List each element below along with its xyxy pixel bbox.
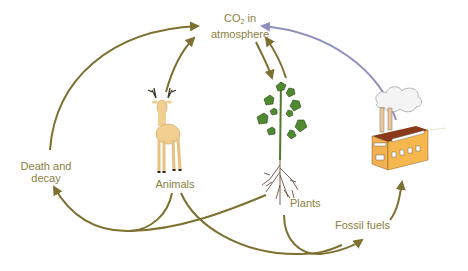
deer-icon <box>148 88 182 173</box>
arrow-animals-to-co2 <box>166 38 194 92</box>
faint-line <box>430 128 446 130</box>
co2-suffix: in <box>244 12 256 24</box>
death-decay-line1: Death and <box>21 160 72 172</box>
arrow-factory-to-co2 <box>262 26 396 120</box>
arrow-co2-to-plants <box>256 42 272 78</box>
factory-icon <box>372 87 428 170</box>
co2-atmosphere-label: CO2 in atmosphere <box>205 12 275 40</box>
death-decay-label: Death and decay <box>10 160 82 184</box>
co2-prefix: CO <box>224 12 241 24</box>
fossil-fuels-label: Fossil fuels <box>335 219 405 231</box>
arrow-animals-to-death <box>54 187 172 231</box>
arrow-fossil-to-factory <box>390 182 402 220</box>
plant-icon <box>257 82 307 205</box>
co2-line2: atmosphere <box>211 28 269 40</box>
death-decay-line2: decay <box>31 172 60 184</box>
plants-label: Plants <box>290 197 330 209</box>
animals-label: Animals <box>150 178 200 190</box>
